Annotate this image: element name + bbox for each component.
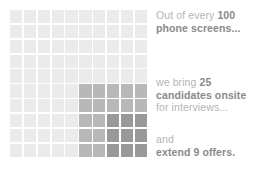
waffle-cell [10, 129, 22, 142]
waffle-cell [24, 69, 36, 82]
waffle-cell [65, 55, 77, 68]
waffle-cell [38, 55, 50, 68]
waffle-cell [121, 129, 133, 142]
waffle-cell [107, 10, 119, 23]
waffle-cell [52, 25, 64, 38]
waffle-cell [38, 84, 50, 97]
waffle-cell [65, 25, 77, 38]
waffle-infographic: Out of every 100 phone screens... we bri… [0, 0, 255, 169]
waffle-cell [135, 25, 147, 38]
waffle-cell [135, 55, 147, 68]
waffle-cell [135, 69, 147, 82]
waffle-cell [65, 84, 77, 97]
waffle-cell [121, 144, 133, 157]
waffle-cell [107, 25, 119, 38]
waffle-cell [65, 129, 77, 142]
waffle-cell [52, 99, 64, 112]
waffle-cell [107, 129, 119, 142]
waffle-cell [121, 25, 133, 38]
waffle-cell [79, 25, 91, 38]
waffle-cell [65, 10, 77, 23]
waffle-cell [38, 10, 50, 23]
legend-block-candidates-onsite: we bring 25 candidates onsite for interv… [156, 76, 255, 114]
waffle-cell [121, 99, 133, 112]
waffle-cell [38, 69, 50, 82]
waffle-cell [107, 69, 119, 82]
waffle-cell [24, 84, 36, 97]
waffle-cell [135, 40, 147, 53]
waffle-cell [10, 55, 22, 68]
waffle-cell [79, 84, 91, 97]
waffle-cell [93, 114, 105, 127]
waffle-cell [65, 99, 77, 112]
waffle-cell [24, 114, 36, 127]
waffle-cell [93, 10, 105, 23]
waffle-cell [52, 40, 64, 53]
legend-offers-line1: and [156, 133, 255, 146]
waffle-cell [107, 114, 119, 127]
waffle-cell [93, 144, 105, 157]
waffle-cell [10, 144, 22, 157]
waffle-cell [135, 84, 147, 97]
waffle-cell [121, 84, 133, 97]
waffle-cell [79, 10, 91, 23]
waffle-cell [65, 40, 77, 53]
legend-onsite-line2: candidates onsite [156, 89, 255, 102]
waffle-cell [38, 40, 50, 53]
legend-onsite-number: 25 [200, 76, 212, 88]
waffle-cell [107, 144, 119, 157]
waffle-cell [52, 114, 64, 127]
waffle-cell [135, 129, 147, 142]
waffle-cell [121, 40, 133, 53]
waffle-cell [52, 84, 64, 97]
waffle-cell [107, 40, 119, 53]
legend-onsite-line3: for interviews... [156, 101, 255, 114]
waffle-cell [24, 129, 36, 142]
waffle-cell [52, 69, 64, 82]
waffle-cell [38, 99, 50, 112]
waffle-cell [24, 55, 36, 68]
waffle-cell [79, 40, 91, 53]
waffle-cell [38, 114, 50, 127]
legend-screens-number: 100 [217, 9, 235, 21]
waffle-cell [38, 129, 50, 142]
waffle-cell [10, 99, 22, 112]
waffle-cell [121, 114, 133, 127]
waffle-cell [79, 144, 91, 157]
waffle-cell [38, 25, 50, 38]
waffle-cell [52, 144, 64, 157]
legend-onsite-line1: we bring 25 [156, 76, 255, 89]
waffle-cell [10, 84, 22, 97]
waffle-cell [135, 114, 147, 127]
waffle-cell [121, 69, 133, 82]
waffle-cell [93, 25, 105, 38]
waffle-cell [10, 10, 22, 23]
waffle-cell [79, 99, 91, 112]
waffle-cell [107, 99, 119, 112]
waffle-cell [93, 40, 105, 53]
waffle-cell [79, 114, 91, 127]
waffle-cell [107, 55, 119, 68]
legend-screens-line1: Out of every 100 [156, 9, 255, 22]
waffle-cell [93, 84, 105, 97]
waffle-cell [10, 25, 22, 38]
waffle-cell [52, 55, 64, 68]
waffle-cell [135, 10, 147, 23]
legend-block-phone-screens: Out of every 100 phone screens... [156, 9, 255, 34]
waffle-cell [93, 129, 105, 142]
waffle-cell [24, 144, 36, 157]
waffle-cell [24, 25, 36, 38]
waffle-cell [79, 55, 91, 68]
waffle-cell [121, 55, 133, 68]
waffle-cell [135, 144, 147, 157]
waffle-cell [121, 10, 133, 23]
waffle-grid [10, 10, 147, 157]
waffle-cell [52, 129, 64, 142]
legend-onsite-prefix: we bring [156, 76, 200, 88]
legend-column: Out of every 100 phone screens... we bri… [156, 0, 255, 169]
waffle-cell [79, 69, 91, 82]
waffle-cell [24, 40, 36, 53]
waffle-cell [10, 114, 22, 127]
legend-block-offers-extended: and extend 9 offers. [156, 133, 255, 158]
waffle-cell [93, 55, 105, 68]
